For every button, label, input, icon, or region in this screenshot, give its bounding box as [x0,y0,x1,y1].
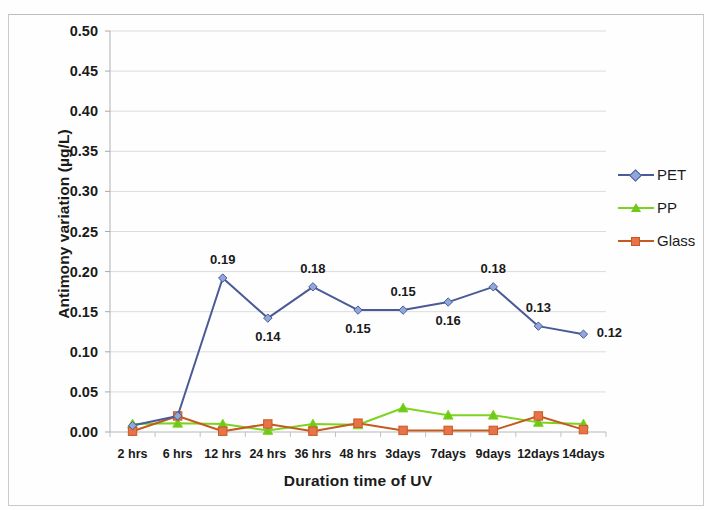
pet-data-label: 0.16 [436,313,461,328]
y-tick-label: 0.40 [38,103,98,119]
chart-legend: PET PP Glass [618,158,706,257]
x-tick-label: 14days [562,447,604,461]
diamond-marker-icon [629,169,642,182]
y-tick-label: 0.05 [38,384,98,400]
x-tick-label: 48 hrs [340,447,377,461]
y-tick-label: 0.50 [38,23,98,39]
x-tick-label: 6 hrs [163,447,193,461]
triangle-marker-icon [631,203,641,212]
pet-data-label: 0.13 [526,300,551,315]
pet-data-label: 0.12 [597,325,622,340]
pet-data-label: 0.14 [255,329,280,344]
y-tick-label: 0.15 [38,304,98,320]
legend-label-pp: PP [657,200,677,215]
y-tick-label: 0.10 [38,344,98,360]
square-marker-icon [631,237,640,246]
x-tick-label: 24 hrs [249,447,286,461]
pet-data-label: 0.18 [300,261,325,276]
legend-item-pp[interactable]: PP [618,191,706,224]
chart-figure: Antimony variation (µg/L) Duration time … [0,0,710,510]
y-tick-label: 0.25 [38,224,98,240]
pet-data-label: 0.19 [210,252,235,267]
pp-series-swatch [618,201,654,215]
legend-item-pet[interactable]: PET [618,158,706,191]
legend-label-pet: PET [657,167,686,182]
x-tick-label: 3days [385,447,420,461]
chart-plot-canvas [0,0,710,510]
glass-series-swatch [618,234,654,248]
pet-series-swatch [618,168,654,182]
x-tick-label: 12days [517,447,559,461]
y-tick-label: 0.45 [38,63,98,79]
x-tick-label: 7days [430,447,465,461]
x-tick-label: 36 hrs [294,447,331,461]
y-tick-label: 0.00 [38,424,98,440]
y-tick-label: 0.35 [38,143,98,159]
x-tick-label: 12 hrs [204,447,241,461]
legend-item-glass[interactable]: Glass [618,224,706,257]
x-axis-title: Duration time of UV [110,472,606,490]
y-tick-label: 0.30 [38,183,98,199]
legend-label-glass: Glass [657,233,695,248]
pet-data-label: 0.15 [390,284,415,299]
pet-data-label: 0.15 [345,321,370,336]
y-tick-label: 0.20 [38,264,98,280]
pet-data-label: 0.18 [481,261,506,276]
x-tick-label: 9days [476,447,511,461]
x-tick-label: 2 hrs [118,447,148,461]
